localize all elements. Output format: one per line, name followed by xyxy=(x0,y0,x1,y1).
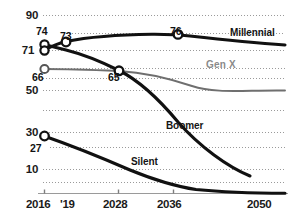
generational-line-chart: 90 71 50 30 10 74 73 66 65 76 27 Millenn… xyxy=(0,0,293,219)
data-point-markers xyxy=(40,30,182,140)
series-label-boomer: Boomer xyxy=(166,120,203,131)
value-label-65: 65 xyxy=(108,71,119,83)
series-label-silent: Silent xyxy=(131,156,158,167)
series-label-gen-x: Gen X xyxy=(206,59,236,70)
value-label-73: 73 xyxy=(60,30,71,42)
x-tick-2050: 2050 xyxy=(247,198,271,210)
y-tick-71: 71 xyxy=(14,44,34,56)
series-line-gen-x xyxy=(44,69,285,91)
value-label-66: 66 xyxy=(32,71,43,83)
y-tick-50: 50 xyxy=(18,84,38,96)
series-line-silent xyxy=(44,136,285,193)
x-tick-2019: '19 xyxy=(60,198,75,210)
value-label-27: 27 xyxy=(30,142,41,154)
x-tick-2016: 2016 xyxy=(26,198,50,210)
y-tick-30: 30 xyxy=(18,126,38,138)
y-tick-10: 10 xyxy=(18,163,38,175)
x-tick-2028: 2028 xyxy=(103,198,127,210)
marker-silent-2016-27 xyxy=(40,132,49,141)
marker-millennial-2016-71 xyxy=(40,46,48,54)
series-label-millennial: Millennial xyxy=(230,27,275,38)
value-label-74: 74 xyxy=(36,25,47,37)
y-tick-90: 90 xyxy=(18,9,38,21)
x-tick-2036: 2036 xyxy=(157,198,181,210)
value-label-76: 76 xyxy=(170,25,181,37)
